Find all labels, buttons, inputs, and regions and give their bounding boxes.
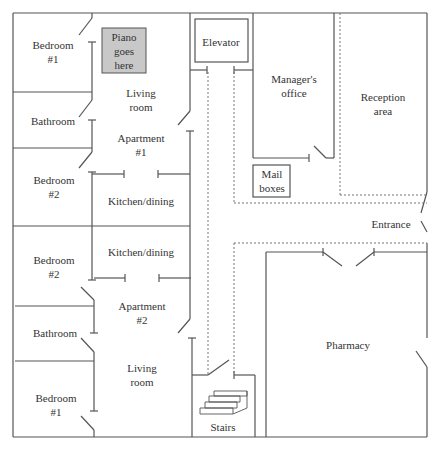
stairs-label: Stairs (210, 420, 235, 434)
managers-office-label: Manager'soffice (271, 72, 316, 100)
pharmacy-label: Pharmacy (326, 338, 370, 352)
mail-boxes-label: Mailboxes (259, 167, 285, 195)
apartment-1-title: Apartment#1 (117, 131, 164, 159)
reception-area-label: Receptionarea (361, 90, 406, 118)
room-apt1-bedroom1: Bedroom#1 (33, 38, 74, 66)
room-apt2-bathroom: Bathroom (33, 326, 77, 340)
room-apt2-living: Livingroom (127, 361, 156, 389)
entrance-label: Entrance (371, 217, 410, 231)
room-apt2-kitchen: Kitchen/dining (108, 245, 174, 259)
piano-label: Pianogoeshere (111, 30, 136, 72)
room-apt2-bedroom2: Bedroom#2 (34, 253, 75, 281)
elevator-label: Elevator (202, 35, 239, 49)
room-apt2-bedroom1: Bedroom#1 (36, 391, 77, 419)
room-apt1-living: Livingroom (126, 86, 155, 114)
room-apt1-bathroom: Bathroom (31, 114, 75, 128)
room-apt1-kitchen: Kitchen/dining (108, 194, 174, 208)
room-apt1-bedroom2: Bedroom#2 (34, 173, 75, 201)
stairs-icon (200, 391, 247, 414)
apartment-2-title: Apartment#2 (118, 299, 165, 327)
